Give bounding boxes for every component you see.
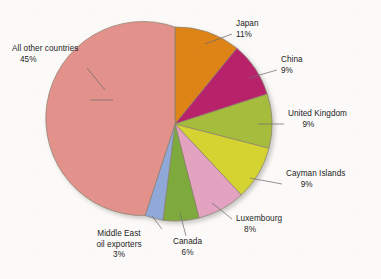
slice-label-canada: Canada 6%: [160, 237, 215, 258]
slice-label-luxembourg-pct: 8%: [236, 225, 282, 236]
slice-label-cayman-islands: Cayman Islands 9%: [286, 169, 345, 190]
slice-label-united-kingdom-pct: 9%: [288, 120, 347, 131]
slice-label-canada-name: Canada: [160, 237, 215, 248]
slice-label-middle-east-oil-exporters: Middle East oil exporters 3%: [75, 229, 163, 261]
slice-label-luxembourg-name: Luxembourg: [236, 214, 282, 225]
slice-label-japan-pct: 11%: [236, 30, 270, 41]
slice-label-all-other-countries-pct: 45%: [12, 55, 78, 66]
slice-label-japan: Japan 11%: [236, 19, 270, 40]
slice-label-united-kingdom: United Kingdom 9%: [288, 109, 347, 130]
slice-label-luxembourg: Luxembourg 8%: [236, 214, 282, 235]
leader-line-cayman-islands: [250, 178, 282, 184]
slice-label-middle-east-line1: Middle East: [75, 229, 163, 240]
slice-label-cayman-islands-pct: 9%: [286, 180, 345, 191]
pie-chart: Japan 11% China 9% United Kingdom 9% Cay…: [0, 0, 381, 279]
pie-slices-group: [46, 22, 272, 221]
slice-label-middle-east-pct: 3%: [75, 250, 163, 261]
slice-label-cayman-islands-name: Cayman Islands: [286, 169, 345, 180]
slice-label-united-kingdom-name: United Kingdom: [288, 109, 347, 120]
slice-label-japan-name: Japan: [236, 19, 270, 30]
slice-label-china-pct: 9%: [281, 66, 311, 77]
slice-label-canada-pct: 6%: [160, 248, 215, 259]
slice-label-middle-east-line2: oil exporters: [75, 240, 163, 251]
slice-label-china-name: China: [281, 55, 311, 66]
slice-label-all-other-countries-name: All other countries: [12, 44, 78, 55]
slice-label-all-other-countries: All other countries 45%: [12, 44, 78, 65]
slice-label-china: China 9%: [281, 55, 311, 76]
